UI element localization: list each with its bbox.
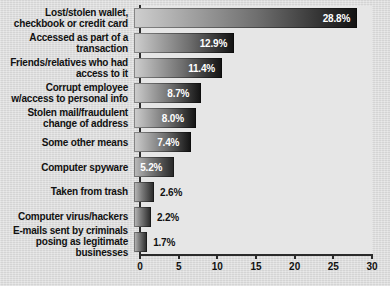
- bar-row: E-mails sent by criminals posing as legi…: [0, 232, 390, 252]
- bar: [134, 182, 154, 202]
- bar-row: Lost/stolen wallet, checkbook or credit …: [0, 8, 390, 28]
- x-tick-mark: [255, 255, 257, 259]
- x-tick-mark: [216, 255, 218, 259]
- bar-value-label: 28.8%: [323, 13, 350, 24]
- bar-value-label: 7.4%: [157, 137, 179, 148]
- bar-value-label: 5.2%: [140, 162, 162, 173]
- bar-row: Some other means7.4%: [0, 132, 390, 152]
- bar-row: Taken from trash2.6%: [0, 182, 390, 202]
- bar-value-label: 8.0%: [162, 112, 184, 123]
- x-tick-label: 5: [167, 261, 191, 272]
- bar-row: Stolen mail/fraudulent change of address…: [0, 108, 390, 128]
- bar-track: 28.8%: [134, 8, 390, 28]
- x-tick-label: 0: [128, 261, 152, 272]
- bar-value-label: 2.6%: [160, 186, 182, 197]
- bar: [134, 232, 147, 252]
- category-label: Corrupt employee w/access to personal in…: [0, 82, 134, 104]
- x-tick-mark: [332, 255, 334, 259]
- bar-track: 11.4%: [134, 58, 390, 78]
- bar-value-label: 11.4%: [188, 62, 215, 73]
- category-label: Accessed as part of a transaction: [0, 32, 134, 54]
- bar-track: 8.0%: [134, 108, 390, 128]
- bar-track: 7.4%: [134, 132, 390, 152]
- x-tick-label: 25: [321, 261, 345, 272]
- x-tick-label: 15: [244, 261, 268, 272]
- x-tick-mark: [178, 255, 180, 259]
- category-label: Computer virus/hackers: [0, 211, 134, 222]
- bar-value-label: 1.7%: [153, 236, 175, 247]
- bar-track: 2.6%: [134, 182, 390, 202]
- x-tick-label: 20: [283, 261, 307, 272]
- bar-value-label: 8.7%: [167, 87, 189, 98]
- x-tick-label: 10: [205, 261, 229, 272]
- category-label: Some other means: [0, 137, 134, 148]
- bar-track: 2.2%: [134, 207, 390, 227]
- x-tick-mark: [294, 255, 296, 259]
- x-tick-label: 30: [360, 261, 384, 272]
- bar-row: Accessed as part of a transaction12.9%: [0, 33, 390, 53]
- category-label: Lost/stolen wallet, checkbook or credit …: [0, 7, 134, 29]
- x-tick-mark: [371, 255, 373, 259]
- bar-track: 1.7%: [134, 232, 390, 252]
- bar-row: Corrupt employee w/access to personal in…: [0, 83, 390, 103]
- category-label: Stolen mail/fraudulent change of address: [0, 107, 134, 129]
- x-tick-mark: [139, 255, 141, 259]
- category-label: Taken from trash: [0, 186, 134, 197]
- bar-value-label: 12.9%: [200, 38, 227, 49]
- bar-row: Computer spyware5.2%: [0, 157, 390, 177]
- bar-chart: Lost/stolen wallet, checkbook or credit …: [0, 0, 390, 286]
- bar-track: 8.7%: [134, 83, 390, 103]
- bar-track: 12.9%: [134, 33, 390, 53]
- bar-row: Computer virus/hackers2.2%: [0, 207, 390, 227]
- category-label: Computer spyware: [0, 162, 134, 173]
- category-label: Friends/relatives who had access to it: [0, 57, 134, 79]
- bar: [134, 207, 151, 227]
- bar-track: 5.2%: [134, 157, 390, 177]
- bar-row: Friends/relatives who had access to it11…: [0, 58, 390, 78]
- bar-value-label: 2.2%: [157, 211, 179, 222]
- category-label: E-mails sent by criminals posing as legi…: [0, 225, 134, 258]
